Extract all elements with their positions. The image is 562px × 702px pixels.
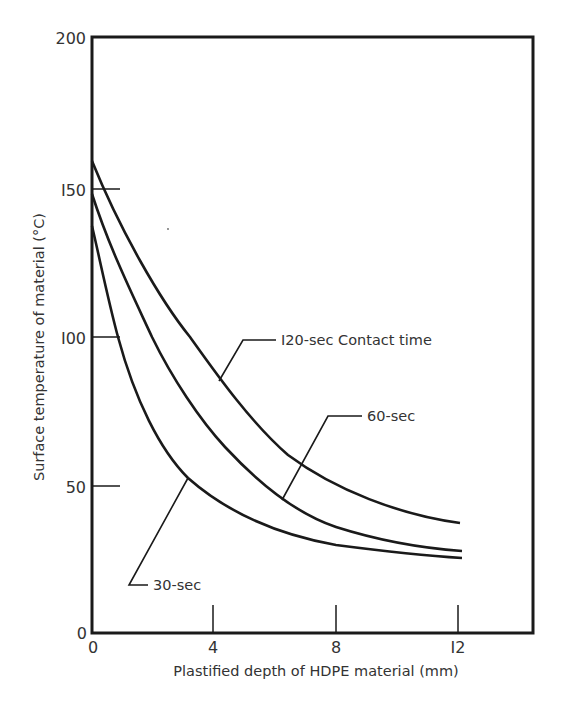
y-tick-label-50: 50 (66, 478, 86, 497)
scan-speck (167, 228, 169, 230)
y-tick-label-100: I00 (61, 329, 86, 348)
chart-figure: 200 I50 I00 50 0 0 4 8 I2 Plastified dep… (0, 0, 562, 702)
leader-120-sec (219, 340, 276, 381)
annotation-60-sec: 60-sec (367, 408, 415, 424)
x-tick-label-8: 8 (331, 638, 341, 657)
x-tick-label-0: 0 (88, 638, 98, 657)
y-axis-label: Surface temperature of material (°C) (31, 213, 47, 481)
leader-30-sec (129, 478, 188, 585)
y-tick-label-0: 0 (77, 624, 87, 643)
annotation-120-sec: I20-sec Contact time (281, 332, 432, 348)
y-tick-label-150: I50 (61, 181, 86, 200)
series-60-sec-line (92, 194, 462, 551)
annotation-30-sec: 30-sec (153, 577, 201, 593)
x-tick-label-4: 4 (208, 638, 218, 657)
x-axis-label: Plastified depth of HDPE material (mm) (173, 663, 458, 679)
x-tick-label-12: I2 (451, 638, 466, 657)
y-tick-label-200: 200 (55, 29, 86, 48)
